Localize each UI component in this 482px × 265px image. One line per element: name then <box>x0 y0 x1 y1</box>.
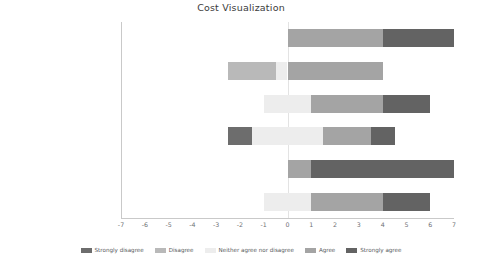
y-axis-spine <box>121 22 122 218</box>
bar-segment <box>311 95 382 113</box>
legend-label: Neither agree nor disagree <box>219 247 294 253</box>
legend-swatch-icon <box>155 248 166 253</box>
bar-segment <box>264 95 312 113</box>
plot-area: This visualization motivatedme to reduce… <box>121 22 454 218</box>
legend-swatch-icon <box>205 248 216 253</box>
bar-row <box>121 193 454 211</box>
bar-segment <box>288 29 383 47</box>
legend-item[interactable]: Disagree <box>155 247 194 253</box>
legend-label: Strongly disagree <box>95 247 144 253</box>
bar-segment <box>264 193 312 211</box>
bar-segment <box>371 127 395 145</box>
legend-item[interactable]: Strongly disagree <box>81 247 144 253</box>
legend-label: Disagree <box>169 247 194 253</box>
bar-segment <box>383 29 454 47</box>
x-axis-line <box>121 218 454 219</box>
bar-row <box>121 127 454 145</box>
bar-segment <box>311 193 382 211</box>
cost-visualization-chart: Cost Visualization This visualization mo… <box>0 0 482 265</box>
legend-item[interactable]: Strongly agree <box>346 247 401 253</box>
bar-segment <box>252 127 323 145</box>
bar-segment <box>288 62 383 80</box>
legend-item[interactable]: Agree <box>305 247 335 253</box>
bar-row <box>121 95 454 113</box>
bar-segment <box>288 160 312 178</box>
bar-row <box>121 160 454 178</box>
bar-segment <box>311 160 454 178</box>
legend-item[interactable]: Neither agree nor disagree <box>205 247 294 253</box>
chart-title: Cost Visualization <box>0 2 482 13</box>
bar-segment <box>323 127 371 145</box>
legend-swatch-icon <box>305 248 316 253</box>
bar-segment <box>383 193 431 211</box>
bar-segment <box>228 127 252 145</box>
legend-swatch-icon <box>81 248 92 253</box>
chart-legend: Strongly disagreeDisagreeNeither agree n… <box>0 247 482 253</box>
bar-row <box>121 29 454 47</box>
legend-label: Agree <box>319 247 335 253</box>
bar-segment <box>276 62 288 80</box>
bar-segment <box>383 95 431 113</box>
bar-segment <box>228 62 276 80</box>
bar-row <box>121 62 454 80</box>
legend-swatch-icon <box>346 248 357 253</box>
zero-reference-line <box>288 22 289 218</box>
x-tick-label: 7 <box>439 221 469 228</box>
legend-label: Strongly agree <box>360 247 401 253</box>
